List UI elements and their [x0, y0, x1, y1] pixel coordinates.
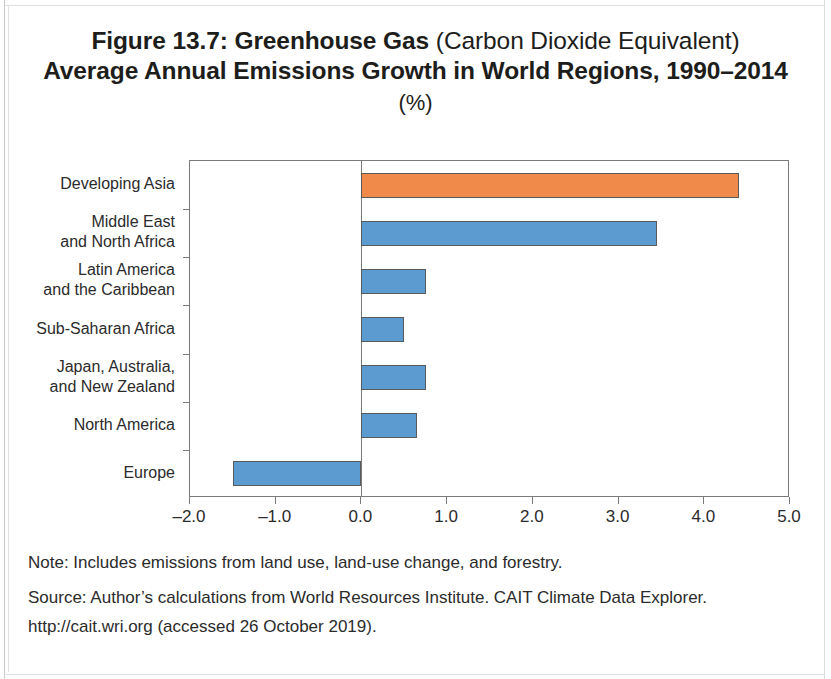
bar [361, 221, 657, 246]
chart-plot-area [189, 160, 789, 497]
page-edge-bottom [4, 674, 824, 675]
y-axis-tick [183, 305, 190, 306]
y-axis-tick [183, 257, 190, 258]
x-axis-tick-label: –1.0 [258, 507, 291, 527]
x-axis-tick-label: 4.0 [691, 507, 715, 527]
y-axis-label: Japan, Australia, and New Zealand [50, 357, 175, 397]
x-axis-tick [360, 497, 361, 504]
figure-title-line-2: Average Annual Emissions Growth in World… [0, 56, 831, 86]
x-axis-tick [703, 497, 704, 504]
bar [361, 413, 417, 438]
figure-title-subtitle: (Carbon Dioxide Equivalent) [436, 27, 740, 54]
bar [233, 461, 362, 486]
y-axis-label: Middle East and North Africa [60, 212, 175, 252]
figure-title-bold: Figure 13.7: Greenhouse Gas [91, 27, 429, 54]
y-axis-tick [183, 209, 190, 210]
bar [361, 317, 404, 342]
figure-source-line-1: Source: Author’s calculations from World… [28, 583, 808, 612]
y-axis-label: Latin America and the Caribbean [43, 260, 175, 300]
y-axis-label: Europe [123, 463, 175, 483]
bar [361, 269, 425, 294]
y-axis-label: North America [74, 415, 175, 435]
x-axis-tick [532, 497, 533, 504]
x-axis-tick-label: 2.0 [520, 507, 544, 527]
figure-notes: Note: Includes emissions from land use, … [28, 548, 808, 641]
figure-note: Note: Includes emissions from land use, … [28, 548, 808, 577]
figure-source-line-2: http://cait.wri.org (accessed 26 October… [28, 612, 808, 641]
x-axis-tick-label: 0.0 [349, 507, 373, 527]
bar [361, 365, 425, 390]
figure-page: Figure 13.7: Greenhouse Gas (Carbon Diox… [0, 0, 831, 679]
y-axis-tick [183, 450, 190, 451]
x-axis-tick [275, 497, 276, 504]
x-axis-tick [189, 497, 190, 504]
page-edge-top [4, 5, 824, 6]
bar [361, 173, 738, 198]
y-axis-label: Sub-Saharan Africa [36, 319, 175, 339]
x-axis-tick-label: 1.0 [434, 507, 458, 527]
x-axis-tick [618, 497, 619, 504]
figure-title-units: (%) [0, 88, 831, 118]
figure-title-line-1: Figure 13.7: Greenhouse Gas (Carbon Diox… [0, 26, 831, 56]
x-axis-tick-label: 5.0 [777, 507, 801, 527]
y-axis-label: Developing Asia [60, 174, 175, 194]
y-axis-tick [183, 402, 190, 403]
x-axis: –2.0–1.00.01.02.03.04.05.0 [189, 497, 789, 507]
y-axis-labels: Developing AsiaMiddle East and North Afr… [0, 160, 182, 497]
x-axis-tick-label: –2.0 [172, 507, 205, 527]
x-axis-tick [446, 497, 447, 504]
x-axis-tick-label: 3.0 [606, 507, 630, 527]
y-axis-tick [183, 354, 190, 355]
x-axis-tick [789, 497, 790, 504]
figure-title: Figure 13.7: Greenhouse Gas (Carbon Diox… [0, 26, 831, 118]
